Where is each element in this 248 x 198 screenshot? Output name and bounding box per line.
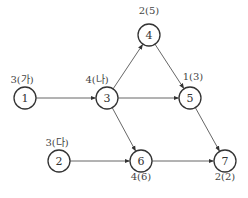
node-number: 7 [222, 155, 229, 168]
edge-3-4 [113, 45, 143, 89]
node-number: 6 [138, 155, 145, 168]
diagram-svg: 1234567 [0, 0, 248, 198]
node-5: 5 [179, 87, 201, 109]
node-number: 5 [187, 92, 194, 105]
node-5-annotation: 1(3) [183, 71, 204, 82]
node-3: 3 [96, 87, 118, 109]
node-number: 4 [146, 29, 153, 42]
edge-5-7 [195, 108, 219, 151]
node-1: 1 [14, 87, 36, 109]
node-7-annotation: 2(2) [215, 171, 236, 182]
node-7: 7 [214, 150, 236, 172]
node-number: 2 [56, 155, 63, 168]
network-diagram: 1234567 3(가)3(다)4(나)2(5)1(3)4(6)2(2) [0, 0, 248, 198]
node-4: 4 [138, 24, 160, 46]
node-1-annotation: 3(가) [10, 71, 33, 86]
node-6-annotation: 4(6) [131, 171, 152, 182]
node-number: 3 [104, 92, 111, 105]
node-2: 2 [48, 150, 70, 172]
node-2-annotation: 3(다) [45, 134, 68, 149]
edge-3-6 [112, 108, 135, 151]
node-4-annotation: 2(5) [139, 5, 160, 16]
node-number: 1 [22, 92, 29, 105]
node-6: 6 [130, 150, 152, 172]
edge-4-5 [155, 44, 184, 88]
node-3-annotation: 4(나) [85, 71, 108, 86]
